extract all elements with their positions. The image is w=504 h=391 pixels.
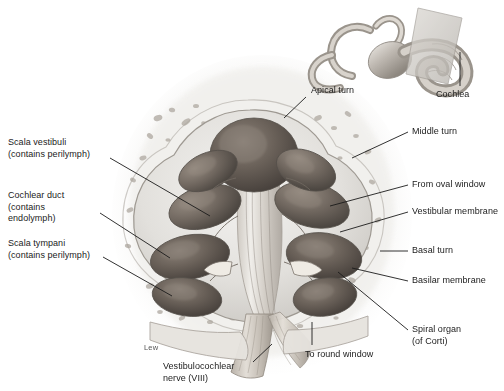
label-spiral-organ: Spiral organ (of Corti) [412,324,461,347]
label-basilar-membrane: Basilar membrane [412,275,486,287]
label-to-round-window: To round window [305,349,373,361]
label-cochlear-duct: Cochlear duct (contains endolymph) [8,190,64,225]
cochlea-figure: Scala vestibuli (contains perilymph) Coc… [0,0,504,391]
label-vestibular-membrane: Vestibular membrane [412,206,498,218]
label-from-oval-window: From oval window [412,179,485,191]
label-apical-turn: Apical turn [311,85,354,97]
label-scala-vestibuli: Scala vestibuli (contains perilymph) [8,137,90,160]
artist-signature: Lew [144,343,158,352]
label-vestibulocochlear-nerve: Vestibulocochlear nerve (VIII) [163,361,234,384]
label-cochlea: Cochlea [436,89,469,101]
label-middle-turn: Middle turn [412,126,457,138]
label-scala-tympani: Scala tympani (contains perilymph) [8,238,90,261]
label-basal-turn: Basal turn [412,245,453,257]
